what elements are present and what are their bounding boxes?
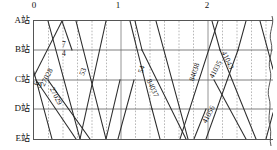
station-label-a: A站 [2,16,30,25]
station-label-b: B站 [2,45,30,54]
train-label-4: 4 [62,50,66,58]
hour-label-0: 0 [27,1,41,10]
station-label-c: C站 [2,75,30,84]
torn-edge-decoration [265,16,277,146]
train-line-up2 [106,80,120,139]
train-diagram-figure: 0 1 2 A站 B站 C站 D站 E站 [0,0,277,150]
train-label-9: 9 [38,82,42,90]
train-line-41056 [214,80,246,139]
train-line-6 [34,50,52,139]
train-line-41035b [238,21,246,50]
hour-label-2: 2 [200,1,214,10]
train-line-54b [152,109,160,139]
hour-label-1: 1 [111,1,125,10]
station-label-d: D站 [2,104,30,113]
train-label-7: 7 [62,41,66,49]
train-line-mid-up [118,80,134,139]
station-label-e: E站 [2,134,30,143]
